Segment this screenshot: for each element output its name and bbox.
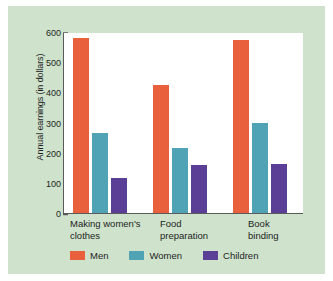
- y-axis-tick-label: 0: [8, 209, 61, 219]
- bar-group: [73, 33, 127, 213]
- y-axis-title: Annual earnings (in dollars): [35, 27, 45, 187]
- legend-item-men: Men: [70, 250, 108, 261]
- bar-women: [252, 123, 268, 213]
- legend-item-children: Children: [203, 250, 258, 261]
- legend-swatch-men-icon: [70, 251, 85, 260]
- legend-swatch-women-icon: [129, 251, 144, 260]
- legend-label: Men: [90, 250, 108, 261]
- y-axis-tick-label: 600: [8, 28, 61, 38]
- y-axis-tick-label: 400: [8, 88, 61, 98]
- bar-men: [233, 40, 249, 213]
- bar-men: [153, 85, 169, 213]
- y-axis-tick-label: 100: [8, 179, 61, 189]
- chart-legend: MenWomenChildren: [70, 250, 258, 261]
- bar-children: [191, 165, 207, 213]
- x-axis-category-label: Book binding: [248, 218, 279, 241]
- legend-label: Women: [149, 250, 182, 261]
- x-axis-category-label: Making women's clothes: [70, 218, 140, 241]
- bar-men: [73, 38, 89, 213]
- legend-item-women: Women: [129, 250, 182, 261]
- legend-label: Children: [223, 250, 258, 261]
- bar-women: [172, 148, 188, 213]
- x-axis-category-label: Food preparation: [160, 218, 208, 241]
- plot-area: [63, 33, 303, 214]
- bar-group: [233, 33, 287, 213]
- bar-children: [271, 164, 287, 213]
- bar-children: [111, 178, 127, 213]
- y-axis-tick-label: 300: [8, 119, 61, 129]
- y-axis-tick-label: 500: [8, 58, 61, 68]
- y-axis-tick-label: 200: [8, 149, 61, 159]
- bar-group: [153, 33, 207, 213]
- chart-figure: Annual earnings (in dollars) 01002003004…: [8, 6, 325, 274]
- bar-women: [92, 133, 108, 213]
- legend-swatch-children-icon: [203, 251, 218, 260]
